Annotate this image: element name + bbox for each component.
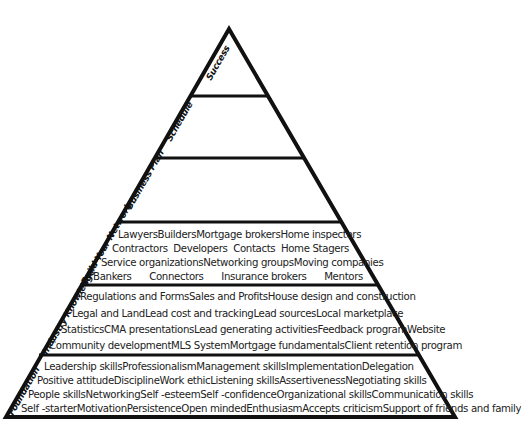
network-row-4: Bankers Connectors Insurance brokers Men… xyxy=(93,271,363,282)
foundation-row-2: Positive attitude Discipline Work ethic … xyxy=(37,375,420,386)
list-item: Mentors xyxy=(324,271,363,282)
list-item: Leadership skills xyxy=(44,361,122,372)
list-item: Lead cost and tracking xyxy=(145,308,253,319)
list-item: Persistence xyxy=(127,403,181,414)
list-item: Feedback program xyxy=(317,324,407,335)
foundation-row-4: Self -starter Motivation Persistence Ope… xyxy=(21,403,439,414)
list-item: Sales and Profits xyxy=(189,291,268,302)
list-item: Client retention program xyxy=(345,340,463,351)
list-item: Implementation xyxy=(286,361,362,372)
list-item: Community development xyxy=(49,340,171,351)
list-item: Statistics xyxy=(61,324,104,335)
list-item: Connectors xyxy=(149,271,203,282)
list-item: Legal and Land xyxy=(72,308,145,319)
list-item: Mortgage brokers xyxy=(196,229,280,240)
list-item: Regulations and Forms xyxy=(80,291,189,302)
industry-row-1: Regulations and Forms Sales and Profits … xyxy=(80,291,376,302)
list-item: Organizational skills xyxy=(276,389,371,400)
industry-row-2: Legal and Land Lead cost and tracking Le… xyxy=(72,308,384,319)
list-item: CMA presentations xyxy=(104,324,194,335)
industry-row-3: Statistics CMA presentations Lead genera… xyxy=(61,324,397,335)
list-item: Home Stagers xyxy=(281,243,349,254)
list-item: Local marketplace xyxy=(316,308,403,319)
list-item: Bankers xyxy=(93,271,132,282)
list-item: Positive attitude xyxy=(37,375,114,386)
list-item: Professionalism xyxy=(122,361,196,372)
network-row-3: Service organizations Networking groups … xyxy=(101,257,356,268)
list-item: Listening skills xyxy=(210,375,279,386)
list-item: Delegation xyxy=(362,361,414,372)
list-item: Motivation xyxy=(77,403,127,414)
list-item: Service organizations xyxy=(101,257,203,268)
list-item: Self -esteem xyxy=(140,389,200,400)
list-item: People skills xyxy=(28,389,86,400)
list-item: MLS System xyxy=(171,340,230,351)
list-item: Lead sources xyxy=(253,308,316,319)
industry-row-4: Community development MLS System Mortgag… xyxy=(49,340,407,351)
list-item: Lead generating activities xyxy=(194,324,317,335)
list-item: Work ethic xyxy=(160,375,211,386)
network-row-2: Contractors Developers Contacts Home Sta… xyxy=(112,243,349,254)
list-item: Home inspectors xyxy=(280,229,361,240)
list-item: Discipline xyxy=(114,375,160,386)
list-item: Moving companies xyxy=(294,257,384,268)
list-item: Support of friends and family xyxy=(383,403,521,414)
list-item: Builders xyxy=(158,229,197,240)
list-item: Contractors xyxy=(112,243,168,254)
list-item: Networking xyxy=(86,389,141,400)
list-item: Networking groups xyxy=(203,257,293,268)
foundation-row-3: People skills Networking Self -esteem Se… xyxy=(28,389,430,400)
foundation-row-1: Leadership skills Professionalism Manage… xyxy=(44,361,386,372)
list-item: Negotiating skills xyxy=(345,375,426,386)
list-item: Insurance brokers xyxy=(221,271,306,282)
list-item: Self -confidence xyxy=(200,389,276,400)
list-item: Accepts criticism xyxy=(302,403,382,414)
list-item: Contacts xyxy=(233,243,275,254)
list-item: Open minded xyxy=(181,403,246,414)
list-item: Website xyxy=(407,324,445,335)
list-item: Management skills xyxy=(196,361,285,372)
list-item: House design and construction xyxy=(268,291,416,302)
list-item: Developers xyxy=(173,243,227,254)
list-item: Self -starter xyxy=(21,403,77,414)
network-row-1: Lawyers Builders Mortgage brokers Home i… xyxy=(118,229,341,240)
list-item: Lawyers xyxy=(118,229,158,240)
list-item: Communication skills xyxy=(372,389,474,400)
list-item: Assertiveness xyxy=(279,375,345,386)
list-item: Enthusiasm xyxy=(246,403,302,414)
list-item: Mortgage fundamentals xyxy=(230,340,345,351)
